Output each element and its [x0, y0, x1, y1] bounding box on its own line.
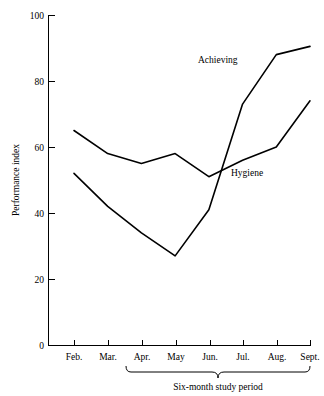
- x-tick-label-feb: Feb.: [66, 352, 83, 362]
- x-tick-label-jul: Jul.: [236, 352, 249, 362]
- x-tick-label-aug: Aug.: [268, 352, 287, 362]
- y-tick-label-40: 40: [35, 209, 45, 219]
- x-tick-label-may: May: [167, 352, 185, 362]
- study-period-caption: Six-month study period: [173, 382, 263, 392]
- x-tick-label-mar: Mar.: [99, 352, 117, 362]
- y-tick-label-60: 60: [35, 143, 45, 153]
- y-tick-label-80: 80: [35, 77, 45, 87]
- series-line-hygiene: [74, 101, 310, 177]
- x-tick-label-jun: Jun.: [202, 352, 218, 362]
- chart-canvas: 100 80 60 40 20 0 Performance index Feb.…: [0, 0, 324, 396]
- series-label-achieving: Achieving: [198, 55, 238, 65]
- y-tick-label-0: 0: [39, 341, 44, 351]
- y-axis-title: Performance index: [11, 144, 21, 216]
- series-label-hygiene: Hygiene: [231, 168, 263, 178]
- y-tick-label-100: 100: [30, 11, 45, 21]
- x-tick-label-sept: Sept.: [300, 352, 319, 362]
- x-tick-label-apr: Apr.: [134, 352, 151, 362]
- y-tick-label-20: 20: [35, 275, 45, 285]
- line-chart-figure: 100 80 60 40 20 0 Performance index Feb.…: [0, 0, 324, 396]
- study-period-bracket: [126, 366, 310, 378]
- series-line-achieving: [74, 46, 310, 256]
